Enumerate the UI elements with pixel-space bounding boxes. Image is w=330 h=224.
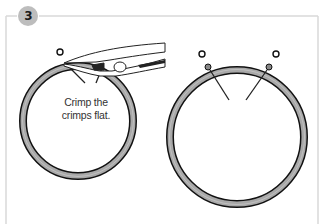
right-ring <box>170 70 305 205</box>
instruction-step-panel: 3 Crimp the crimps flat. <box>0 0 330 224</box>
crimp-bead-icon <box>266 64 272 70</box>
wire-loop-icon <box>273 51 279 57</box>
step-number: 3 <box>20 7 37 25</box>
wire-loop-icon <box>57 49 63 55</box>
caption-line-2: crimps flat. <box>46 109 126 122</box>
wire-loop-icon <box>199 51 205 57</box>
caption-line-1: Crimp the <box>46 96 126 109</box>
crimp-bead-icon <box>205 64 211 70</box>
crimping-pliers-icon <box>64 43 165 76</box>
instruction-caption: Crimp the crimps flat. <box>46 96 126 122</box>
